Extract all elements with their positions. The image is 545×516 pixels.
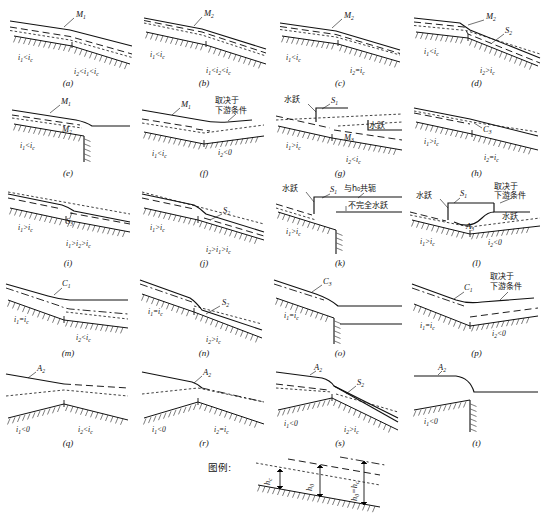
leader-M2 (468, 20, 484, 25)
curve-label-S2: S2 (357, 377, 364, 388)
channel-bed (144, 132, 265, 149)
critical-depth-line (410, 215, 540, 227)
panel-caption-t: (t) (408, 438, 545, 448)
normal-depth-line-downstream (64, 384, 128, 388)
panel-m: C1 i1=ic i2<ic (m) (0, 272, 136, 360)
critical-depth-line (280, 30, 400, 56)
panel-o: C3 i1=ic (o) (272, 272, 408, 360)
panel-caption-k: (k) (272, 258, 408, 268)
bed-hatching (276, 299, 341, 344)
left-slope-condition: i1<ic (18, 53, 33, 63)
panel-caption-h: (h) (408, 168, 545, 178)
bed-hatching (144, 403, 258, 427)
legend-title: 图例: (208, 462, 231, 473)
panel-f-drawing: M1 取决于 下游条件 i1<ic i2<0 (136, 92, 272, 168)
bed-hatching (414, 402, 477, 432)
note-line-2: 下游条件 (215, 105, 247, 115)
leader-M1 (64, 18, 74, 27)
right-slope-condition: i2<0 (492, 329, 506, 339)
panel-caption-i: (i) (0, 258, 136, 268)
bed-hatching (14, 36, 128, 69)
panel-a-drawing: M1 i1<ic i2<i1<ic (0, 0, 136, 78)
note-line-1: 取决于 (490, 271, 514, 281)
panel-c: M2 i1<ic i2=ic (c) (272, 0, 408, 90)
left-slope-condition: i1<0 (284, 419, 298, 429)
critical-depth-line (414, 111, 538, 132)
curve-label-S3: S3 (66, 216, 73, 227)
panel-k: 水跃 S1 与h₀共轭 不完全水跃 i1>ic (k) (272, 182, 408, 270)
curve-label-A2: A2 (437, 362, 446, 373)
critical-depth-line (142, 388, 264, 402)
left-slope-condition: i1<0 (152, 425, 166, 435)
panel-i: S3 i1>ic i1>i2>ic (i) (0, 182, 136, 270)
panel-l-drawing: 水跃 S1 取决于 下游条件 水跃 A3 i1>ic i2<0 (408, 182, 545, 258)
normal-depth-line (276, 384, 328, 390)
leader-note (500, 292, 508, 300)
jump-label: 水跃 (282, 183, 298, 193)
legend-h0-line (288, 459, 380, 475)
panel-q-drawing: A2 i1<0 i2<ic (0, 362, 136, 438)
critical-depth-line (142, 192, 264, 224)
panel-i-drawing: S3 i1>ic i1>i2>ic (0, 182, 136, 258)
panel-caption-l: (l) (408, 258, 545, 268)
panel-t: A2 i1<0 (t) (408, 362, 545, 450)
channel-bed (282, 36, 401, 67)
leader-jump-left (308, 104, 316, 112)
curve-label-A2: A2 (313, 362, 322, 373)
normal-depth-line (414, 113, 470, 124)
legend-hc-line (256, 463, 380, 485)
leader-S2 (346, 386, 356, 394)
leader-jump (306, 192, 314, 202)
curve-label-M2: M2 (203, 8, 214, 19)
normal-depth-line (414, 22, 540, 63)
curve-label-M2: M2 (343, 10, 354, 21)
left-slope-condition: i1>ic (424, 137, 439, 147)
panel-h-drawing: C3 i1>ic i2=ic (408, 92, 545, 168)
curve-label-A3: A3 (465, 221, 474, 232)
panel-o-drawing: C3 i1=ic (272, 272, 408, 348)
legend-channel (258, 485, 381, 512)
curve-label-S1: S1 (331, 95, 338, 106)
water-surface-C3 (414, 108, 538, 136)
curve-label-M1: M1 (75, 9, 86, 20)
panel-caption-j: (j) (136, 258, 272, 268)
leader-S2 (210, 214, 222, 220)
panel-q: A2 i1<0 i2<ic (q) (0, 362, 136, 450)
critical-depth-line (142, 123, 264, 133)
legend: 图例: hc h0 (180, 455, 545, 516)
panel-j-drawing: S2 i1>ic i2>i1>ic (136, 182, 272, 258)
panel-caption-q: (q) (0, 438, 136, 448)
curve-label-S1: S1 (460, 188, 467, 199)
panel-caption-a: (a) (0, 78, 136, 88)
jump-surface-S1 (316, 108, 348, 122)
right-slope-condition: i2<ic (346, 155, 361, 165)
panel-c-drawing: M2 i1<ic i2=ic (272, 0, 408, 78)
panel-caption-d: (d) (408, 78, 545, 88)
panel-r: A2 i1<0 i2=ic (r) (136, 362, 272, 450)
curve-label-C1: C1 (62, 278, 71, 289)
panel-b-drawing: M2 i1<ic i1<i2<ic (136, 0, 272, 78)
leader-jump-left (440, 199, 448, 208)
panel-r-drawing: A2 i1<0 i2=ic (136, 362, 272, 438)
panel-n: S2 i1=ic i2>ic (n) (136, 272, 272, 360)
bed-hatching (146, 32, 262, 68)
leader-M2 (194, 17, 202, 26)
downstream-depth-line (470, 308, 538, 317)
normal-equals-critical-line (274, 284, 324, 300)
right-slope-condition: i2<ic (76, 333, 91, 343)
left-slope-condition: i1<ic (20, 141, 35, 151)
curve-label-M1: M1 (60, 96, 71, 107)
channel-bed (8, 400, 129, 425)
right-slope-condition: i2>i1>ic (206, 245, 231, 255)
water-surface-A2 (142, 372, 202, 388)
leader-M1 (172, 108, 180, 115)
note-line-2: 下游条件 (490, 281, 522, 291)
panel-caption-o: (o) (272, 348, 408, 358)
right-slope-condition: i2>ic (344, 425, 359, 435)
right-slope-condition: i2>ic (206, 335, 221, 345)
panel-caption-m: (m) (0, 348, 136, 358)
curve-label-C3: C3 (323, 276, 332, 287)
panel-caption-r: (r) (136, 438, 272, 448)
left-slope-condition: i1>ic (286, 141, 301, 151)
legend-dim-h0: h0 (304, 465, 323, 497)
